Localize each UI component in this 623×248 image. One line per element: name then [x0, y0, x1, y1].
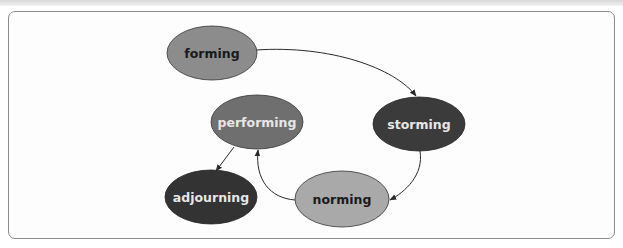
node-label: forming	[184, 46, 239, 61]
edge-performing-to-adjourning	[216, 147, 234, 171]
node-label: norming	[313, 192, 372, 207]
node-forming: forming	[167, 26, 257, 80]
node-label: performing	[218, 115, 297, 130]
node-adjourning: adjourning	[165, 170, 257, 224]
node-performing: performing	[211, 95, 303, 149]
edge-norming-to-performing	[258, 150, 295, 200]
node-norming: norming	[295, 171, 389, 227]
node-storming: storming	[373, 97, 465, 151]
node-label: adjourning	[173, 190, 249, 205]
edge-storming-to-norming	[390, 151, 421, 200]
edge-forming-to-storming	[256, 49, 416, 96]
team-stages-diagram: forming storming norming performing adjo…	[0, 0, 623, 248]
node-label: storming	[387, 117, 450, 132]
